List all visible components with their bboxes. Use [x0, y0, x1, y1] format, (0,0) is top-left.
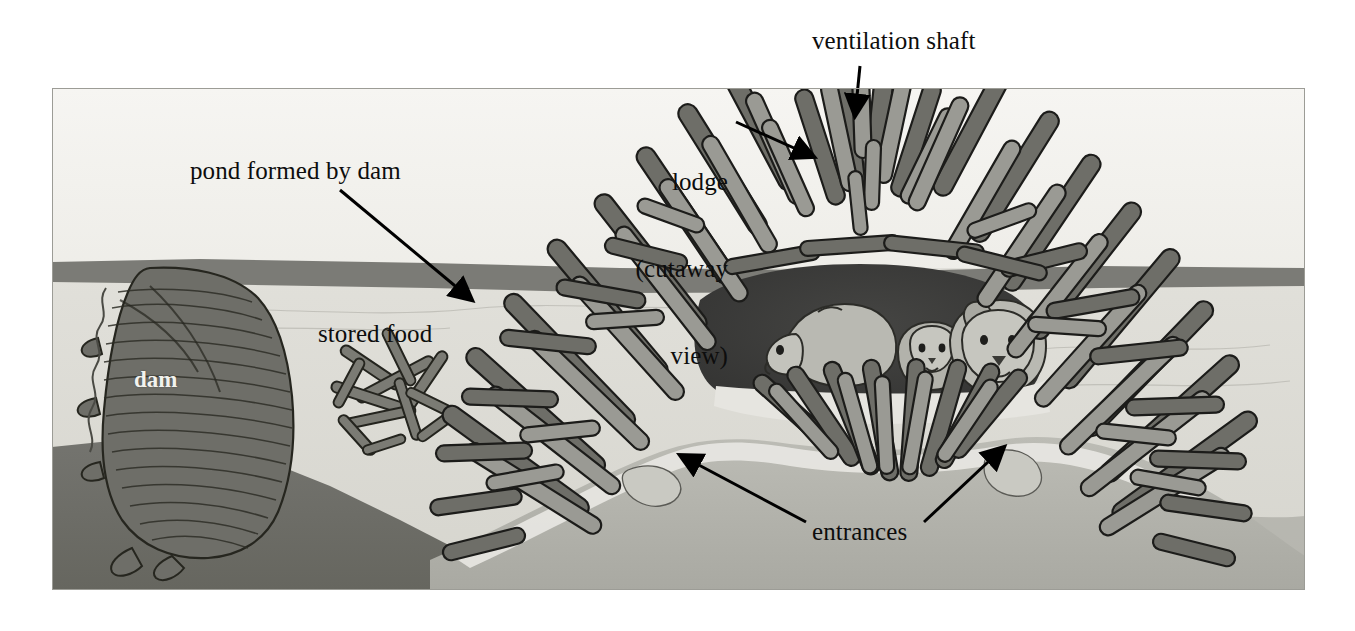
label-lodge-line3: view)	[578, 341, 728, 370]
label-pond-formed-by-dam: pond formed by dam	[190, 156, 401, 185]
label-lodge-line2: (cutaway	[578, 254, 728, 283]
label-entrances: entrances	[812, 517, 907, 546]
diagram-canvas: ventilation shaft lodge (cutaway view) p…	[0, 0, 1355, 631]
label-stored-food: stored food	[318, 319, 432, 348]
label-lodge-cutaway-view: lodge (cutaway view)	[578, 109, 728, 428]
label-ventilation-shaft: ventilation shaft	[812, 26, 975, 55]
label-dam: dam	[134, 367, 177, 393]
label-lodge-line1: lodge	[578, 167, 728, 196]
